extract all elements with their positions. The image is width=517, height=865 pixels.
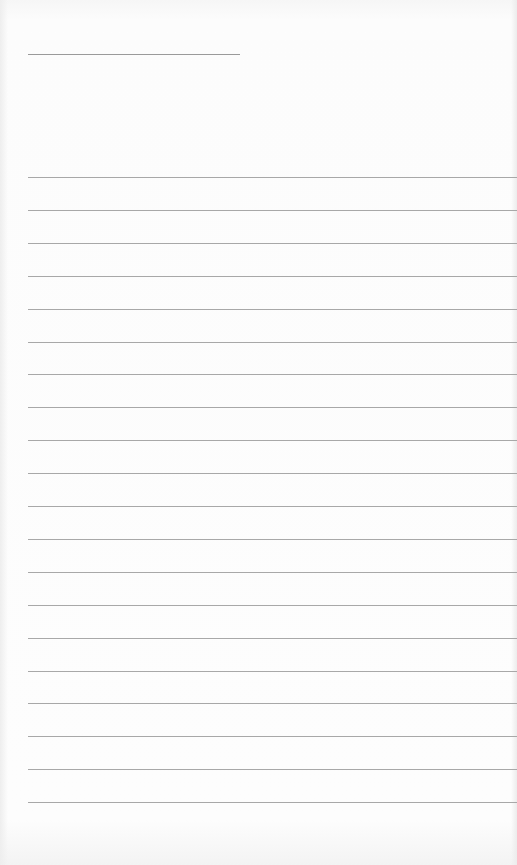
ruled-line xyxy=(28,374,517,375)
ruled-line xyxy=(28,802,517,803)
ruled-line xyxy=(28,276,517,277)
ruled-line xyxy=(28,342,517,343)
ruled-line xyxy=(28,440,517,441)
ruled-line xyxy=(28,506,517,507)
paper-edge-left xyxy=(0,0,8,865)
ruled-line xyxy=(28,572,517,573)
ruled-line xyxy=(28,638,517,639)
ruled-line xyxy=(28,703,517,704)
ruled-line xyxy=(28,539,517,540)
ruled-line xyxy=(28,407,517,408)
ruled-line xyxy=(28,473,517,474)
ruled-line xyxy=(28,309,517,310)
title-line xyxy=(28,54,240,55)
ruled-line xyxy=(28,769,517,770)
ruled-line xyxy=(28,243,517,244)
ruled-line xyxy=(28,671,517,672)
ruled-line xyxy=(28,605,517,606)
lined-paper-sheet xyxy=(0,0,517,865)
ruled-line xyxy=(28,736,517,737)
ruled-line xyxy=(28,177,517,178)
ruled-line xyxy=(28,210,517,211)
